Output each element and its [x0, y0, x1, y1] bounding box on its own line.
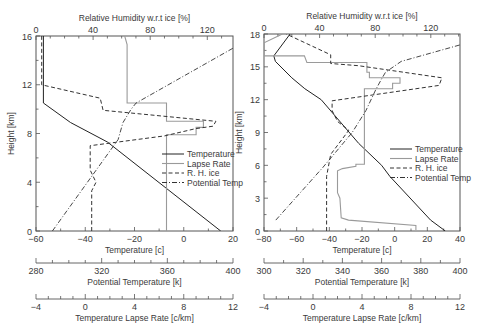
legend-label: Potential Temp [415, 173, 471, 183]
x-tick-label: 40 [455, 234, 465, 244]
series-temperature [274, 34, 446, 231]
y-tick-label: 9 [255, 128, 260, 138]
series-potential-temp [276, 45, 460, 220]
series-temperature [43, 36, 220, 231]
secondary-tick-label: −4 [259, 302, 269, 312]
x-tick-label: 0 [392, 234, 397, 244]
legend-label: R. H. ice [415, 163, 448, 173]
secondary-tick-label: 8 [408, 302, 413, 312]
legend-label: R. H. ice [187, 168, 220, 178]
secondary-tick-label: 0 [83, 302, 88, 312]
secondary-tick-label: 8 [181, 302, 186, 312]
y-tick-label: 12 [250, 95, 260, 105]
secondary-axis-label: Potential Temperature [k] [87, 277, 181, 287]
top-axis-label: Relative Humidity w.r.t ice [%] [79, 13, 190, 23]
top-tick-label: 40 [315, 23, 325, 33]
panel-left: 0481216Height [km]−60−40−20020Temperatur… [6, 13, 243, 323]
x-axis-label: Temperature [c] [332, 245, 391, 255]
y-tick-label: 6 [255, 161, 260, 171]
lapse-rate-axis: −404812Temperature Lapse Rate [c/km] [31, 294, 238, 323]
secondary-tick-label: −4 [31, 302, 41, 312]
secondary-tick-label: 400 [452, 266, 467, 276]
secondary-tick-label: 360 [374, 266, 389, 276]
secondary-tick-label: 12 [228, 302, 238, 312]
legend-label: Lapse Rate [415, 154, 459, 164]
legend-label: Potential Temp [187, 178, 243, 188]
secondary-tick-label: 280 [28, 266, 43, 276]
y-tick-label: 8 [27, 129, 32, 139]
chart-canvas: 0481216Height [km]−60−40−20020Temperatur… [0, 0, 478, 327]
secondary-tick-label: 340 [335, 266, 350, 276]
y-tick-label: 16 [22, 32, 32, 42]
figure: 0481216Height [km]−60−40−20020Temperatur… [0, 0, 478, 327]
lapse-rate-axis: −404812Temperature Lapse Rate [c/km] [259, 294, 465, 323]
top-tick-label: 40 [88, 25, 98, 35]
y-tick-label: 4 [27, 178, 32, 188]
x-tick-label: −40 [322, 234, 337, 244]
plot-frame [264, 34, 460, 231]
top-axis-label: Relative Humidity w.r.t ice [%] [306, 11, 417, 21]
x-tick-label: 20 [422, 234, 432, 244]
x-tick-label: −80 [256, 234, 271, 244]
y-tick-label: 15 [250, 62, 260, 72]
x-tick-label: −40 [78, 234, 93, 244]
x-tick-label: 20 [228, 234, 238, 244]
secondary-axis-label: Potential Temperature [k] [315, 277, 409, 287]
x-tick-label: −60 [289, 234, 304, 244]
y-tick-label: 3 [255, 194, 260, 204]
legend: TemperatureLapse RateR. H. icePotential … [162, 149, 243, 188]
series-potential-temp [52, 48, 233, 231]
x-axis-label: Temperature [c] [105, 245, 164, 255]
y-tick-label: 18 [250, 30, 260, 40]
legend-label: Temperature [415, 144, 463, 154]
potential-temperature-axis: 280320360400Potential Temperature [k] [28, 258, 240, 287]
x-tick-label: −20 [127, 234, 142, 244]
secondary-tick-label: 320 [296, 266, 311, 276]
y-tick-label: 12 [22, 80, 32, 90]
secondary-tick-label: 300 [256, 266, 271, 276]
top-tick-label: 80 [145, 25, 155, 35]
secondary-tick-label: 380 [413, 266, 428, 276]
top-tick-label: 120 [200, 25, 215, 35]
secondary-tick-label: 320 [94, 266, 109, 276]
y-axis-label: Height [km] [234, 111, 244, 154]
x-tick-label: 0 [181, 234, 186, 244]
legend-label: Lapse Rate [187, 159, 231, 169]
secondary-tick-label: 360 [160, 266, 175, 276]
x-tick-label: −20 [354, 234, 369, 244]
series-r-h-ice [42, 36, 216, 231]
secondary-tick-label: 12 [455, 302, 465, 312]
secondary-axis-label: Temperature Lapse Rate [c/km] [303, 313, 422, 323]
secondary-tick-label: 0 [310, 302, 315, 312]
top-tick-label: 0 [33, 25, 38, 35]
legend: TemperatureLapse RateR. H. icePotential … [390, 144, 471, 183]
top-tick-label: 120 [423, 23, 438, 33]
panel-right: 0369121518Height [km]−80−60−40−2002040Te… [234, 11, 471, 323]
secondary-tick-label: 400 [225, 266, 240, 276]
y-axis-label: Height [km] [6, 112, 16, 155]
secondary-tick-label: 4 [132, 302, 137, 312]
top-tick-label: 80 [370, 23, 380, 33]
series-lapse-rate [125, 36, 204, 231]
secondary-axis-label: Temperature Lapse Rate [c/km] [75, 313, 194, 323]
potential-temperature-axis: 300320340360380400Potential Temperature … [256, 258, 467, 287]
top-tick-label: 0 [261, 23, 266, 33]
x-tick-label: −60 [28, 234, 43, 244]
secondary-tick-label: 4 [359, 302, 364, 312]
series-lapse-rate [264, 34, 416, 230]
legend-label: Temperature [187, 149, 235, 159]
